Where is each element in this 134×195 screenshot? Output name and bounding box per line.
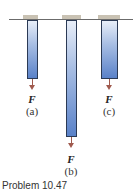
force-label-c: F [99, 93, 119, 105]
bar-b [66, 20, 77, 137]
support-a [23, 15, 38, 19]
bar-label-a: (a) [20, 105, 44, 117]
bar-a [27, 20, 38, 79]
bar-c [101, 20, 118, 79]
arrowhead-a [29, 85, 35, 90]
support-c [98, 15, 120, 19]
figure-caption: Problem 10.47 [2, 180, 67, 191]
arrowhead-c [106, 85, 112, 90]
bar-label-c: (c) [97, 105, 121, 117]
support-b [62, 15, 81, 19]
force-label-b: F [61, 153, 81, 165]
force-label-a: F [22, 93, 42, 105]
arrowhead-b [68, 143, 74, 148]
bar-label-b: (b) [59, 165, 83, 177]
